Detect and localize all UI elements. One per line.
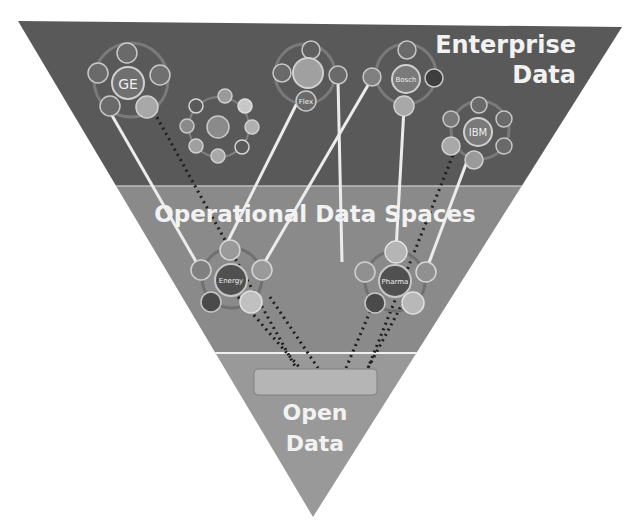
open-data-label-line1: Open (282, 400, 347, 425)
cluster-ring (180, 89, 259, 163)
ge-node-right (150, 65, 170, 85)
energy-center-label: Energy (219, 277, 244, 285)
open-data-label-line2: Data (286, 431, 344, 456)
enterprise-label-line2: Data (512, 61, 576, 89)
ge-node-bottom-left (100, 96, 120, 116)
data-pyramid-diagram: GE Flex Bosch (0, 0, 638, 531)
ge-node-bottom-right (136, 96, 158, 118)
enterprise-label-line1: Enterprise (435, 31, 576, 59)
ge-node-left (88, 63, 108, 83)
bosch-center-label: Bosch (395, 76, 416, 84)
ge-node-top (117, 43, 137, 63)
pharma-center-label: Pharma (382, 278, 409, 286)
ge-center-label: GE (118, 76, 138, 92)
open-data-bar (254, 369, 377, 395)
operational-label: Operational Data Spaces (154, 201, 476, 227)
siemens-flex-label: Flex (299, 98, 313, 106)
ibm-center-label: IBM (469, 127, 487, 138)
